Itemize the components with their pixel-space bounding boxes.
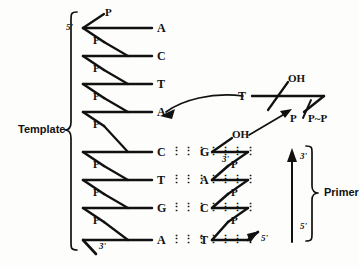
template-zig-3a — [104, 70, 128, 84]
template-phosphate-7: P — [93, 187, 100, 198]
template-base-7: G — [157, 202, 166, 214]
hydrogen-bonds-pair-1: ⋮⋮⋮⋮⋮⋮⋮ — [171, 146, 257, 157]
synthesis-arrow-five-prime-label: 5' — [300, 222, 307, 231]
incoming-pyrophosphate-label: P~P — [308, 113, 327, 124]
incoming-nucleotide-oh-label: OH — [288, 73, 305, 84]
template-phosphate-1: P — [105, 7, 112, 18]
template-phosphate-3: P — [93, 63, 100, 74]
incoming-alpha-phosphate-label: P — [290, 113, 297, 124]
nucleophilic-attack-arrow — [249, 112, 288, 135]
primer-five-prime-label: 5' — [261, 234, 268, 243]
template-phosphate-2: P — [93, 35, 100, 46]
template-label: Template — [18, 124, 65, 135]
template-zig-2a — [104, 42, 128, 56]
template-zig-4a — [104, 98, 128, 112]
primer-terminal-oh-label: OH — [232, 129, 249, 140]
primer-base-4: T — [200, 234, 208, 246]
primer-label: Primer — [324, 187, 359, 198]
primer-phosphate-1: P — [231, 159, 238, 170]
synthesis-arrow-three-prime-label: 3' — [300, 152, 307, 161]
hydrogen-bonds-pair-3: ⋮⋮⋮⋮⋮⋮⋮ — [171, 202, 257, 213]
dna-replication-diagram: Template Primer 5' 3' P P P P P P P P A … — [0, 0, 359, 267]
template-three-prime-tail — [83, 240, 96, 254]
template-base-3: T — [157, 78, 165, 90]
primer-base-1: G — [200, 146, 209, 158]
template-base-2: C — [157, 50, 166, 62]
template-zig-5a — [104, 126, 128, 152]
hydrogen-bonds-pair-4: ⋮⋮⋮⋮⋮⋮⋮ — [171, 234, 257, 245]
primer-base-2: A — [200, 174, 209, 186]
template-base-5: C — [157, 146, 166, 158]
primer-phosphate-2: P — [231, 187, 238, 198]
template-zig-8a — [104, 222, 128, 240]
template-base-4: A — [157, 106, 166, 118]
primer-phosphate-3: P — [231, 215, 238, 226]
template-base-1: A — [157, 22, 166, 34]
incoming-nucleotide-base: T — [238, 90, 246, 102]
template-zig-6a — [104, 166, 128, 180]
template-phosphate-8: P — [93, 215, 100, 226]
primer-three-prime-label: 3' — [222, 155, 229, 164]
primer-brace — [306, 146, 318, 241]
primer-base-3: C — [200, 202, 209, 214]
template-five-prime-label: 5' — [66, 23, 73, 32]
hydrogen-bonds-pair-2: ⋮⋮⋮⋮⋮⋮⋮ — [171, 174, 257, 185]
template-phosphate-5: P — [93, 119, 100, 130]
incoming-base-curved-arrow — [166, 95, 243, 112]
template-three-prime-label: 3' — [99, 242, 106, 251]
template-brace — [65, 12, 77, 250]
template-base-8: A — [157, 234, 166, 246]
template-zig-1a — [83, 14, 104, 28]
synthesis-direction-arrowhead — [287, 148, 297, 162]
template-phosphate-6: P — [93, 159, 100, 170]
template-zig-7a — [104, 194, 128, 208]
template-base-6: T — [157, 174, 165, 186]
template-phosphate-4: P — [93, 91, 100, 102]
